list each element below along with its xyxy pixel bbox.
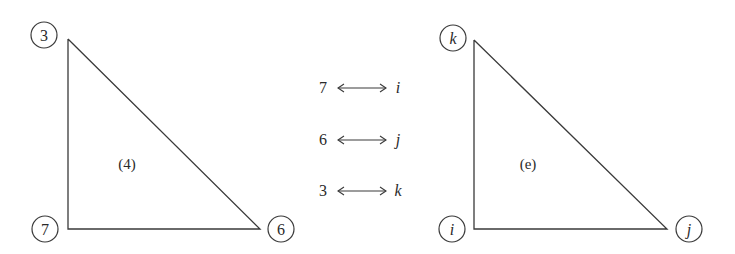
element-mapping-diagram: 3 7 6 (4) 7 i 6 bbox=[0, 0, 735, 254]
right-node-i: i bbox=[439, 216, 465, 242]
mapping-row: 6 j bbox=[319, 131, 401, 149]
right-element: k i j (e) bbox=[439, 25, 702, 242]
global-node-number: 3 bbox=[319, 182, 327, 199]
left-node-7: 7 bbox=[32, 216, 58, 242]
local-node-label: j bbox=[394, 131, 401, 149]
right-triangle-edges bbox=[474, 40, 667, 229]
node-label: i bbox=[450, 221, 454, 238]
right-node-j: j bbox=[676, 216, 702, 242]
local-node-label: k bbox=[394, 182, 402, 199]
right-element-label: (e) bbox=[520, 156, 537, 173]
node-mapping: 7 i 6 j 3 k bbox=[319, 79, 402, 199]
double-arrow-icon bbox=[338, 136, 386, 144]
double-arrow-icon bbox=[338, 84, 386, 92]
global-node-number: 7 bbox=[319, 79, 327, 96]
local-node-label: i bbox=[396, 79, 400, 96]
global-node-number: 6 bbox=[319, 131, 327, 148]
double-arrow-icon bbox=[338, 187, 386, 195]
node-label: 7 bbox=[41, 221, 49, 238]
left-element: 3 7 6 (4) bbox=[31, 22, 294, 242]
left-node-3: 3 bbox=[31, 22, 57, 48]
right-node-k: k bbox=[440, 25, 466, 51]
mapping-row: 3 k bbox=[319, 182, 402, 199]
node-label: k bbox=[449, 30, 457, 47]
node-label: 3 bbox=[40, 27, 48, 44]
mapping-row: 7 i bbox=[319, 79, 400, 96]
node-label: j bbox=[685, 221, 692, 239]
left-triangle-edges bbox=[68, 39, 260, 229]
left-element-label: (4) bbox=[118, 156, 136, 173]
node-label: 6 bbox=[277, 221, 285, 238]
left-node-6: 6 bbox=[268, 216, 294, 242]
